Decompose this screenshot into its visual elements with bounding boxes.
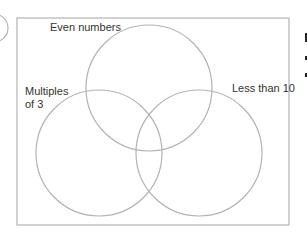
circle-even-numbers <box>86 25 212 151</box>
label-multiples-of-3: Multiples of 3 <box>25 85 68 111</box>
venn-diagram <box>0 0 307 235</box>
label-multiples-line2: of 3 <box>25 98 68 111</box>
partial-circle-marker <box>0 14 8 42</box>
label-less-than-10: Less than 10 <box>232 82 295 95</box>
cropped-text-fragment-1 <box>305 33 307 42</box>
cropped-text-fragment-2 <box>305 56 307 60</box>
cropped-text-fragment-3 <box>305 73 307 77</box>
label-even-numbers: Even numbers <box>50 21 121 34</box>
label-multiples-line1: Multiples <box>25 85 68 98</box>
circle-less-than-10 <box>136 90 262 216</box>
